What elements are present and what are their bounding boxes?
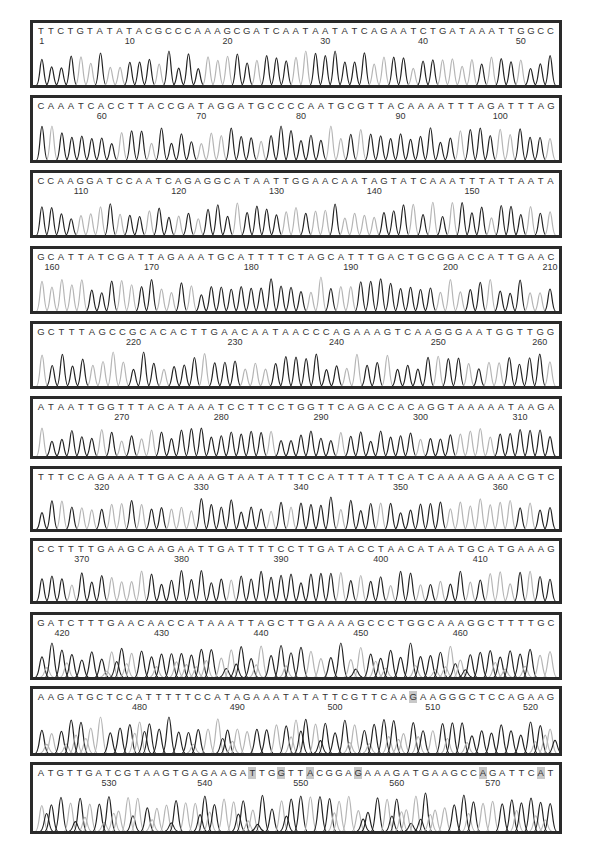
position-label: 70: [196, 111, 206, 121]
position-label: 250: [431, 337, 446, 347]
position-label: 430: [154, 628, 169, 638]
position-label: 390: [274, 554, 289, 564]
position-label: 60: [97, 111, 107, 121]
position-label: 20: [223, 36, 233, 46]
position-label: 310: [513, 412, 528, 422]
position-label: 500: [328, 702, 343, 712]
position-label: 290: [313, 412, 328, 422]
chromatogram-panel: GCATTATCGATTAGAAATGCATTTTCTAGCATTTGACTGC…: [30, 246, 562, 314]
position-label: 150: [464, 186, 479, 196]
position-label: 30: [320, 36, 330, 46]
position-label: 210: [543, 262, 558, 272]
trace-plot: [33, 49, 559, 85]
position-label: 230: [228, 337, 243, 347]
position-ticks: 11020304050: [33, 36, 559, 47]
position-ticks: 530540550560570: [33, 778, 559, 789]
position-ticks: 110120130140150: [33, 186, 559, 197]
chromatogram-panel: CCAAGGATCCAATCAGAGGCATAATTGGAACAATAGTATC…: [30, 170, 562, 238]
position-label: 440: [254, 628, 269, 638]
position-label: 480: [132, 702, 147, 712]
position-label: 240: [329, 337, 344, 347]
chromatogram-panel: AAGATGCTCCATTTTTCCATAGAAATATATTCGTTCAAGA…: [30, 686, 562, 756]
position-label: 520: [523, 702, 538, 712]
position-label: 200: [443, 262, 458, 272]
position-label: 560: [389, 778, 404, 788]
trace-plot: [33, 350, 559, 386]
position-ticks: 60708090100: [33, 111, 559, 122]
chromatogram-panel: TTCTGTATATACGCCCAAAGCGATCAATAATATCAGAATC…: [30, 20, 562, 88]
position-label: 170: [144, 262, 159, 272]
trace-plot: [33, 495, 559, 529]
position-label: 160: [44, 262, 59, 272]
position-label: 350: [393, 482, 408, 492]
position-label: 330: [194, 482, 209, 492]
position-label: 530: [101, 778, 116, 788]
position-label: 220: [126, 337, 141, 347]
position-label: 400: [373, 554, 388, 564]
chromatogram-panel: GCTTTAGCCGCACACTTGAACAATAACCCAGAAAGTCAAG…: [30, 321, 562, 389]
chromatogram-panel: GATCTTTGAACAACCATAAATTAGCTTGAAAAGCCCTGGC…: [30, 612, 562, 680]
position-label: 80: [296, 111, 306, 121]
position-label: 460: [453, 628, 468, 638]
position-label: 130: [269, 186, 284, 196]
chromatogram-panel: CCTTTTGAAGCAAGAATTGATTTTCCTTGATACCTAACAT…: [30, 538, 562, 604]
position-label: 270: [114, 412, 129, 422]
position-label: 550: [293, 778, 308, 788]
position-ticks: 370380390400410: [33, 554, 559, 565]
position-ticks: 480490500510520: [33, 702, 559, 713]
trace-plot: [33, 567, 559, 601]
position-ticks: 270280290300310: [33, 412, 559, 423]
position-label: 510: [425, 702, 440, 712]
chromatogram-panel: ATAATTGGTTTACATAAATCCTTCCTGGTTCAGACCACAG…: [30, 396, 562, 459]
position-label: 260: [532, 337, 547, 347]
trace-plot: [33, 124, 559, 160]
position-ticks: 160170180190200210: [33, 262, 559, 273]
position-label: 410: [473, 554, 488, 564]
position-label: 280: [214, 412, 229, 422]
trace-plot: [33, 275, 559, 311]
position-label: 450: [353, 628, 368, 638]
chromatogram-panel: TTTCCAGAAATTGACAAAGTAATATTTCCATTTATTCATC…: [30, 466, 562, 532]
trace-plot: [33, 715, 559, 753]
position-label: 360: [493, 482, 508, 492]
position-label: 10: [125, 36, 135, 46]
position-label: 40: [418, 36, 428, 46]
position-label: 180: [244, 262, 259, 272]
position-label: 1: [39, 36, 44, 46]
trace-plot: [33, 791, 559, 831]
trace-plot: [33, 641, 559, 677]
position-ticks: 220230240250260: [33, 337, 559, 348]
position-label: 420: [54, 628, 69, 638]
position-label: 540: [197, 778, 212, 788]
trace-plot: [33, 425, 559, 456]
position-label: 340: [293, 482, 308, 492]
position-label: 100: [493, 111, 508, 121]
position-label: 190: [343, 262, 358, 272]
position-label: 320: [94, 482, 109, 492]
position-label: 90: [396, 111, 406, 121]
position-label: 570: [485, 778, 500, 788]
position-label: 380: [174, 554, 189, 564]
position-label: 50: [516, 36, 526, 46]
position-label: 120: [171, 186, 186, 196]
position-label: 140: [367, 186, 382, 196]
position-ticks: 420430440450460: [33, 628, 559, 639]
trace-plot: [33, 199, 559, 235]
position-label: 110: [74, 186, 88, 196]
position-label: 490: [230, 702, 245, 712]
position-label: 370: [74, 554, 89, 564]
chromatogram-panel: ATGTTGATCGTAAGTGAGAAGATTGGTTACGGAGAAAGAT…: [30, 762, 562, 834]
chromatogram-panel: CAAATCACCTTACCGATAGGATGCCCCAATGCGTTACAAA…: [30, 95, 562, 163]
position-ticks: 320330340350360: [33, 482, 559, 493]
position-label: 300: [413, 412, 428, 422]
